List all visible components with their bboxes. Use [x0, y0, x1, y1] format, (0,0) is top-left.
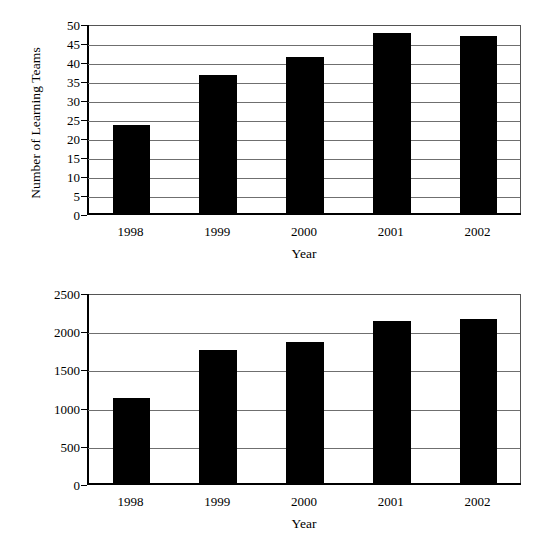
y-tick-label: 1000	[54, 402, 80, 415]
bar	[199, 350, 237, 484]
bar	[373, 33, 411, 214]
x-tick-label: 2000	[291, 494, 317, 510]
x-tick-label: 1999	[204, 224, 230, 240]
y-tick-label: 25	[67, 114, 80, 127]
y-tick-mark	[81, 447, 87, 448]
y-tick-mark	[81, 82, 87, 83]
learning-teams-bar-chart: Number of Learning Teams 051015202530354…	[0, 0, 552, 270]
y-tick-label: 20	[67, 133, 80, 146]
y-tick-mark	[81, 332, 87, 333]
y-tick-label: 5	[74, 190, 81, 203]
x-tick-label: 2001	[378, 494, 404, 510]
bar	[286, 342, 324, 484]
y-tick-mark	[81, 215, 87, 216]
x-axis-title-top: Year	[292, 246, 317, 262]
x-tick-label: 1998	[117, 224, 143, 240]
bar	[199, 75, 237, 214]
y-tick-label: 2000	[54, 326, 80, 339]
x-tick-label: 1998	[117, 494, 143, 510]
y-tick-label: 2500	[54, 288, 80, 301]
y-tick-mark	[81, 101, 87, 102]
bar	[286, 57, 324, 214]
y-tick-mark	[81, 196, 87, 197]
y-tick-mark	[81, 120, 87, 121]
y-tick-mark	[81, 63, 87, 64]
y-tick-mark	[81, 294, 87, 295]
y-tick-label: 10	[67, 171, 80, 184]
gridline	[88, 45, 520, 46]
plot-area-top	[87, 25, 521, 215]
y-axis-line-top	[87, 25, 89, 215]
y-tick-label: 0	[74, 479, 81, 492]
bar	[113, 125, 151, 214]
x-tick-label: 2002	[465, 224, 491, 240]
bar	[373, 321, 411, 484]
y-tick-mark	[81, 485, 87, 486]
y-tick-mark	[81, 25, 87, 26]
y-tick-mark	[81, 158, 87, 159]
x-tick-label: 1999	[204, 494, 230, 510]
plot-area-bottom	[87, 294, 521, 485]
y-tick-label: 50	[67, 19, 80, 32]
y-tick-label: 30	[67, 95, 80, 108]
y-tick-label: 0	[74, 209, 81, 222]
y-tick-label: 1500	[54, 364, 80, 377]
x-axis-title-bottom: Year	[292, 516, 317, 532]
y-tick-label: 35	[67, 76, 80, 89]
students-bar-chart: Number of Students 05001000150020002500 …	[0, 270, 552, 539]
y-axis-tick-labels-bottom: 05001000150020002500	[0, 294, 80, 485]
x-tick-label: 2000	[291, 224, 317, 240]
x-tick-label: 2002	[465, 494, 491, 510]
y-axis-line-bottom	[87, 294, 89, 485]
y-tick-label: 45	[67, 38, 80, 51]
y-tick-mark	[81, 139, 87, 140]
y-tick-label: 500	[61, 440, 81, 453]
y-tick-mark	[81, 370, 87, 371]
y-tick-mark	[81, 409, 87, 410]
y-tick-mark	[81, 177, 87, 178]
y-tick-label: 15	[67, 152, 80, 165]
bar	[113, 398, 151, 484]
x-tick-label: 2001	[378, 224, 404, 240]
bar	[460, 319, 498, 484]
y-tick-label: 40	[67, 57, 80, 70]
y-axis-tick-labels-top: 05101520253035404550	[0, 25, 80, 215]
bar	[460, 36, 498, 214]
gridline	[88, 333, 520, 334]
y-tick-mark	[81, 44, 87, 45]
